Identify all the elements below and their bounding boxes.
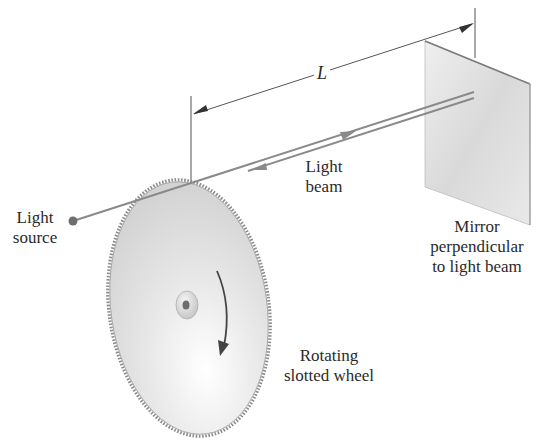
mirror-label-line1: Mirror bbox=[408, 217, 546, 237]
mirror bbox=[425, 41, 530, 225]
axle-icon bbox=[183, 301, 190, 310]
light-beam bbox=[73, 92, 474, 221]
light-beam-label: Light beam bbox=[296, 157, 352, 197]
mirror-label-line2: perpendicular bbox=[408, 237, 546, 257]
distance-label: L bbox=[314, 63, 330, 84]
wheel-label-line1: Rotating bbox=[272, 346, 386, 366]
mirror-label: Mirror perpendicular to light beam bbox=[408, 217, 546, 277]
light-beam-label-line1: Light bbox=[296, 157, 352, 177]
mirror-label-line3: to light beam bbox=[408, 257, 546, 277]
light-source-label-line1: Light bbox=[6, 208, 64, 228]
light-beam-label-line2: beam bbox=[296, 177, 352, 197]
wheel-label-line2: slotted wheel bbox=[272, 366, 386, 386]
light-source-label-line2: source bbox=[6, 228, 64, 248]
arrow-left-icon bbox=[193, 105, 208, 114]
arrow-left-icon bbox=[251, 163, 267, 170]
light-source-dot bbox=[69, 217, 78, 226]
wheel-hub bbox=[176, 291, 198, 319]
wheel-label: Rotating slotted wheel bbox=[272, 346, 386, 386]
beam-outgoing bbox=[73, 92, 474, 221]
arrow-right-icon bbox=[459, 23, 474, 33]
light-source-label: Light source bbox=[6, 208, 64, 248]
